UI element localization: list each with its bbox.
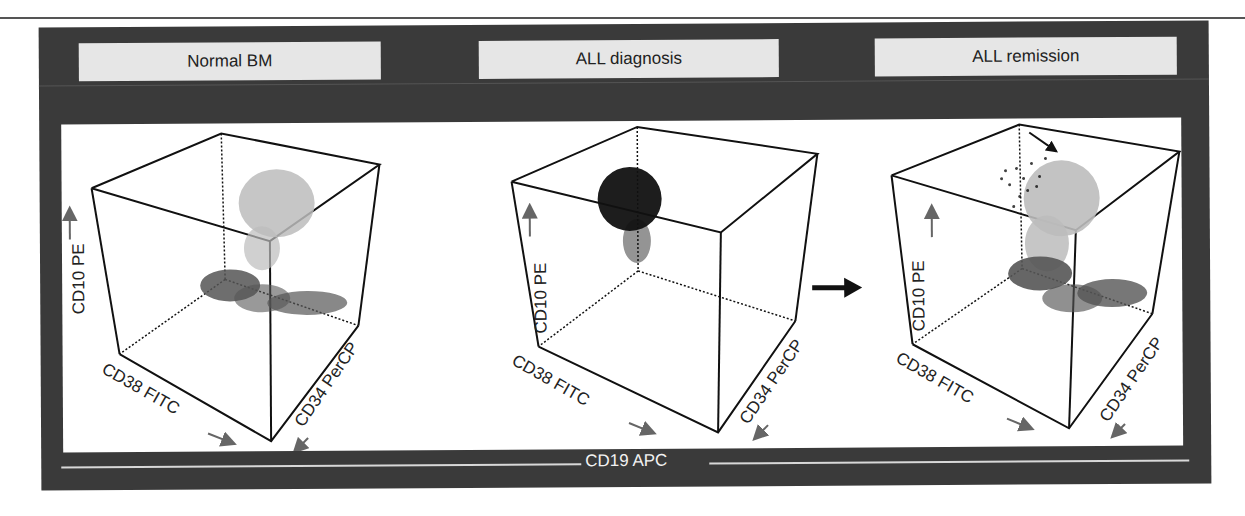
cube-normal-bm: CD10 PE CD38 FITC CD34 PerCP (68, 132, 381, 452)
transition-arrow-icon (812, 278, 862, 298)
shared-axis-band: CD19 APC (41, 445, 1211, 492)
residual-blast-pointer-icon (1029, 132, 1056, 151)
panel-title-all-diagnosis: ALL diagnosis (479, 39, 779, 79)
plot-area: CD10 PE CD38 FITC CD34 PerCP (61, 118, 1183, 453)
y-axis-label: CD10 PE (909, 260, 928, 331)
cube-all-remission: CD10 PE CD38 FITC CD34 PerCP (891, 124, 1181, 438)
cube-all-diagnosis: CD10 PE CD38 FITC CD34 PerCP (507, 126, 819, 440)
figure-frame: Normal BM ALL diagnosis ALL remission (39, 20, 1212, 490)
x-axis-label: CD38 FITC (509, 351, 593, 410)
y-axis-label: CD10 PE (69, 243, 88, 314)
y-axis-label: CD10 PE (531, 263, 550, 334)
cube-plots: CD10 PE CD38 FITC CD34 PerCP (61, 118, 1183, 453)
panel-title-normal-bm: Normal BM (79, 41, 381, 81)
depth-axis-label: CD34 PerCP (736, 336, 808, 428)
depth-axis-label: CD34 PerCP (291, 339, 363, 431)
depth-axis-label: CD34 PerCP (1096, 334, 1168, 426)
panel-title-all-remission: ALL remission (875, 37, 1177, 77)
top-rule (0, 17, 1245, 19)
x-axis-label: CD38 FITC (99, 359, 183, 418)
